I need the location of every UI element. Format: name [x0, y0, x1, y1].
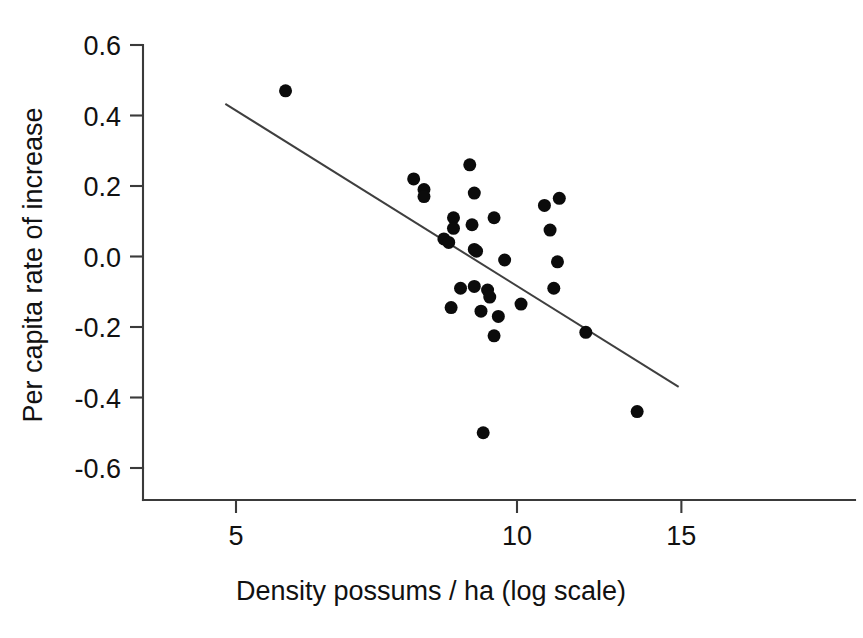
tick-labels: 0.60.40.20.0-0.2-0.4-0.651015	[74, 31, 696, 551]
data-point-marker	[579, 326, 592, 339]
axes	[143, 45, 855, 500]
x-axis-title: Density possums / ha (log scale)	[236, 576, 626, 606]
y-axis-title: Per capita rate of increase	[18, 107, 48, 422]
x-tick-label: 15	[666, 521, 696, 551]
data-point-marker	[279, 84, 292, 97]
data-point-marker	[447, 222, 460, 235]
data-point-marker	[498, 254, 511, 267]
y-tick-label: -0.6	[74, 454, 121, 484]
data-point-marker	[477, 426, 490, 439]
data-point-marker	[407, 172, 420, 185]
data-points	[279, 84, 644, 439]
data-point-marker	[463, 158, 476, 171]
data-point-marker	[553, 192, 566, 205]
data-point-marker	[474, 305, 487, 318]
data-point-marker	[547, 282, 560, 295]
data-point-marker	[470, 245, 483, 258]
x-tick-label: 5	[228, 521, 243, 551]
data-point-marker	[442, 236, 455, 249]
x-tick-label: 10	[502, 521, 532, 551]
data-point-marker	[483, 291, 496, 304]
data-point-marker	[515, 298, 528, 311]
y-tick-label: -0.4	[74, 384, 121, 414]
data-point-marker	[631, 405, 644, 418]
data-point-marker	[488, 329, 501, 342]
y-tick-label: 0.2	[83, 172, 121, 202]
data-point-marker	[417, 190, 430, 203]
data-point-marker	[445, 301, 458, 314]
data-point-marker	[468, 187, 481, 200]
data-point-marker	[466, 218, 479, 231]
data-point-marker	[468, 280, 481, 293]
data-point-marker	[492, 310, 505, 323]
scatter-plot-figure: 0.60.40.20.0-0.2-0.4-0.651015 Density po…	[0, 0, 863, 638]
y-tick-label: 0.0	[83, 243, 121, 273]
plot-canvas: 0.60.40.20.0-0.2-0.4-0.651015 Density po…	[0, 0, 863, 638]
data-point-marker	[544, 224, 557, 237]
tick-marks	[130, 45, 681, 513]
data-point-marker	[454, 282, 467, 295]
data-point-marker	[551, 255, 564, 268]
y-tick-label: -0.2	[74, 313, 121, 343]
data-point-marker	[488, 211, 501, 224]
data-point-marker	[538, 199, 551, 212]
y-tick-label: 0.4	[83, 102, 121, 132]
y-tick-label: 0.6	[83, 31, 121, 61]
